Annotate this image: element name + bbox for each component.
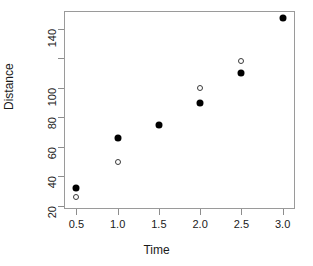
y-axis-tick	[58, 58, 64, 59]
y-axis-tick	[58, 88, 64, 89]
x-axis-title: Time	[0, 243, 313, 257]
scatter-plot-figure: 20406080100140 0.51.01.52.02.53.0 Distan…	[0, 0, 313, 266]
x-axis-tick	[76, 209, 77, 215]
x-axis-tick-label: 0.5	[69, 218, 84, 230]
y-axis-tick	[58, 29, 64, 30]
x-axis-tick	[283, 209, 284, 215]
x-axis-tick-label: 2.5	[234, 218, 249, 230]
x-axis-tick	[159, 209, 160, 215]
y-axis-tick	[58, 176, 64, 177]
y-axis-tick	[58, 117, 64, 118]
y-axis-title: Distance	[2, 63, 16, 110]
x-axis-tick-label: 2.0	[192, 218, 207, 230]
x-axis-tick-label: 1.5	[151, 218, 166, 230]
x-axis-tick	[241, 209, 242, 215]
x-axis-tick-label: 3.0	[275, 218, 290, 230]
x-axis-tick	[118, 209, 119, 215]
x-axis-tick	[200, 209, 201, 215]
plot-frame	[64, 11, 295, 209]
x-axis-tick-label: 1.0	[110, 218, 125, 230]
y-axis-tick	[58, 206, 64, 207]
y-axis-tick	[58, 147, 64, 148]
